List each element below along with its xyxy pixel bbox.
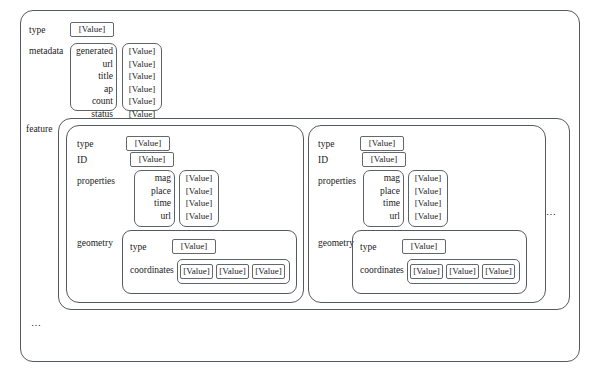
feature-type-value[interactable]: [Value]: [360, 136, 404, 151]
root-type-value[interactable]: [Value]: [70, 22, 114, 37]
feature-type-value[interactable]: [Value]: [126, 136, 170, 151]
property-value[interactable]: [Value]: [179, 185, 219, 198]
root-overflow-ellipsis: …: [31, 318, 42, 328]
coordinate-value[interactable]: [Value]: [180, 264, 213, 279]
feature-properties-label: properties: [77, 175, 115, 187]
geometry-type-value[interactable]: [Value]: [402, 239, 446, 254]
metadata-key: generated: [70, 45, 113, 58]
coordinates-label: coordinates: [360, 264, 404, 276]
property-key: place: [363, 185, 400, 198]
property-key: mag: [134, 172, 171, 185]
feature-id-value[interactable]: [Value]: [362, 152, 406, 167]
coordinates-label: coordinates: [130, 264, 174, 276]
root-metadata-label: metadata: [29, 45, 63, 57]
metadata-value[interactable]: [Value]: [122, 95, 162, 108]
property-key: place: [134, 185, 171, 198]
property-value[interactable]: [Value]: [408, 185, 448, 198]
property-value[interactable]: [Value]: [408, 172, 448, 185]
properties-values-list[interactable]: [Value] [Value] [Value] [Value] …: [408, 172, 448, 235]
feature-id-label: ID: [77, 154, 87, 166]
root-type-label: type: [29, 24, 45, 36]
metadata-keys-list: generated url title ap count status: [70, 45, 113, 121]
feature-geometry-label: geometry: [318, 237, 354, 249]
metadata-key: url: [70, 58, 113, 71]
property-key: time: [134, 197, 171, 210]
property-value[interactable]: [Value]: [408, 197, 448, 210]
coordinate-value[interactable]: [Value]: [252, 264, 285, 279]
properties-keys-list: mag place time url …: [363, 172, 400, 235]
properties-keys-list: mag place time url …: [134, 172, 171, 235]
metadata-value[interactable]: [Value]: [122, 70, 162, 83]
feature-properties-label: properties: [318, 175, 356, 187]
feature-type-label: type: [318, 138, 334, 150]
feature-type-label: type: [77, 138, 93, 150]
metadata-value[interactable]: [Value]: [122, 58, 162, 71]
geometry-type-value[interactable]: [Value]: [172, 239, 216, 254]
geometry-type-label: type: [130, 241, 146, 253]
metadata-value[interactable]: [Value]: [122, 45, 162, 58]
property-value[interactable]: [Value]: [179, 172, 219, 185]
metadata-key: title: [70, 70, 113, 83]
property-value[interactable]: [Value]: [179, 197, 219, 210]
feature-id-label: ID: [318, 154, 328, 166]
metadata-value[interactable]: [Value]: [122, 83, 162, 96]
more-features-ellipsis: …: [546, 207, 557, 217]
feature-id-value[interactable]: [Value]: [130, 152, 174, 167]
properties-values-list[interactable]: [Value] [Value] [Value] [Value] …: [179, 172, 219, 235]
property-value[interactable]: [Value]: [179, 210, 219, 223]
metadata-key: count: [70, 95, 113, 108]
coordinate-value[interactable]: [Value]: [482, 264, 515, 279]
feature-geometry-label: geometry: [77, 237, 113, 249]
property-key: mag: [363, 172, 400, 185]
property-key: url: [363, 210, 400, 223]
property-key: time: [363, 197, 400, 210]
property-key: url: [134, 210, 171, 223]
coordinate-value[interactable]: [Value]: [446, 264, 479, 279]
metadata-key: ap: [70, 83, 113, 96]
geometry-type-label: type: [360, 241, 376, 253]
coordinate-value[interactable]: [Value]: [410, 264, 443, 279]
coordinate-value[interactable]: [Value]: [216, 264, 249, 279]
root-feature-label: feature: [26, 123, 52, 135]
property-value[interactable]: [Value]: [408, 210, 448, 223]
metadata-values-list[interactable]: [Value] [Value] [Value] [Value] [Value] …: [122, 45, 162, 121]
